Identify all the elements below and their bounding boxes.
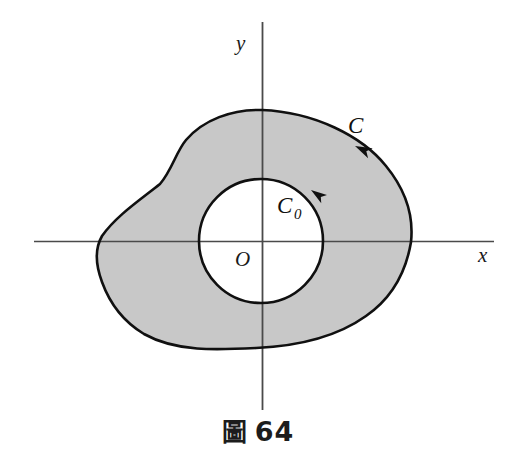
y-axis-label: y: [234, 31, 246, 55]
x-axis-label: x: [477, 243, 488, 267]
figure-caption-number: 64: [255, 416, 295, 447]
outer-curve-label: C: [348, 113, 364, 138]
figure-caption-prefix: 圖: [222, 418, 248, 447]
annulus-region-diagram: y x O C C 0: [0, 0, 516, 470]
figure-container: y x O C C 0 圖64: [0, 0, 516, 470]
inner-curve-label: C: [277, 193, 293, 218]
shaded-region: [0, 0, 516, 470]
inner-curve-label-subscript: 0: [294, 206, 302, 222]
figure-caption: 圖64: [0, 410, 516, 455]
origin-label: O: [235, 247, 250, 271]
